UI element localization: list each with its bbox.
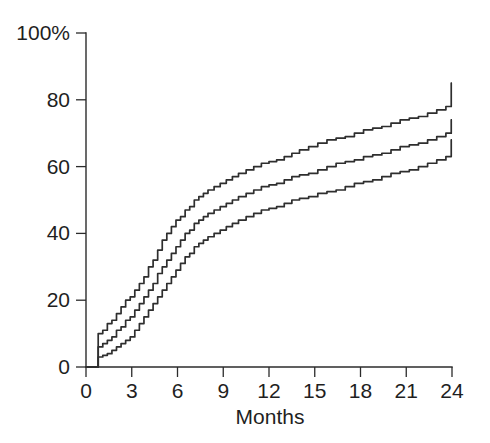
x-tick-label-6: 6	[172, 379, 184, 402]
chart-figure: 020406080100% 03691215182124 Months	[0, 0, 490, 443]
x-tick-label-12: 12	[257, 379, 280, 402]
x-tick-label-3: 3	[126, 379, 138, 402]
cumulative-incidence-chart: 020406080100% 03691215182124 Months	[0, 0, 490, 443]
x-tick-label-18: 18	[349, 379, 372, 402]
x-tick-label-15: 15	[303, 379, 326, 402]
chart-background	[0, 0, 490, 443]
x-tick-label-0: 0	[80, 379, 92, 402]
y-tick-label-20: 20	[47, 288, 70, 311]
y-tick-label-80: 80	[47, 88, 70, 111]
y-tick-label-40: 40	[47, 221, 70, 244]
x-tick-label-24: 24	[440, 379, 464, 402]
x-tick-label-9: 9	[217, 379, 229, 402]
x-tick-label-21: 21	[395, 379, 418, 402]
y-tick-label-60: 60	[47, 155, 70, 178]
y-tick-label-0: 0	[58, 355, 70, 378]
y-tick-label-100: 100%	[16, 21, 70, 44]
x-axis-title: Months	[236, 405, 305, 428]
